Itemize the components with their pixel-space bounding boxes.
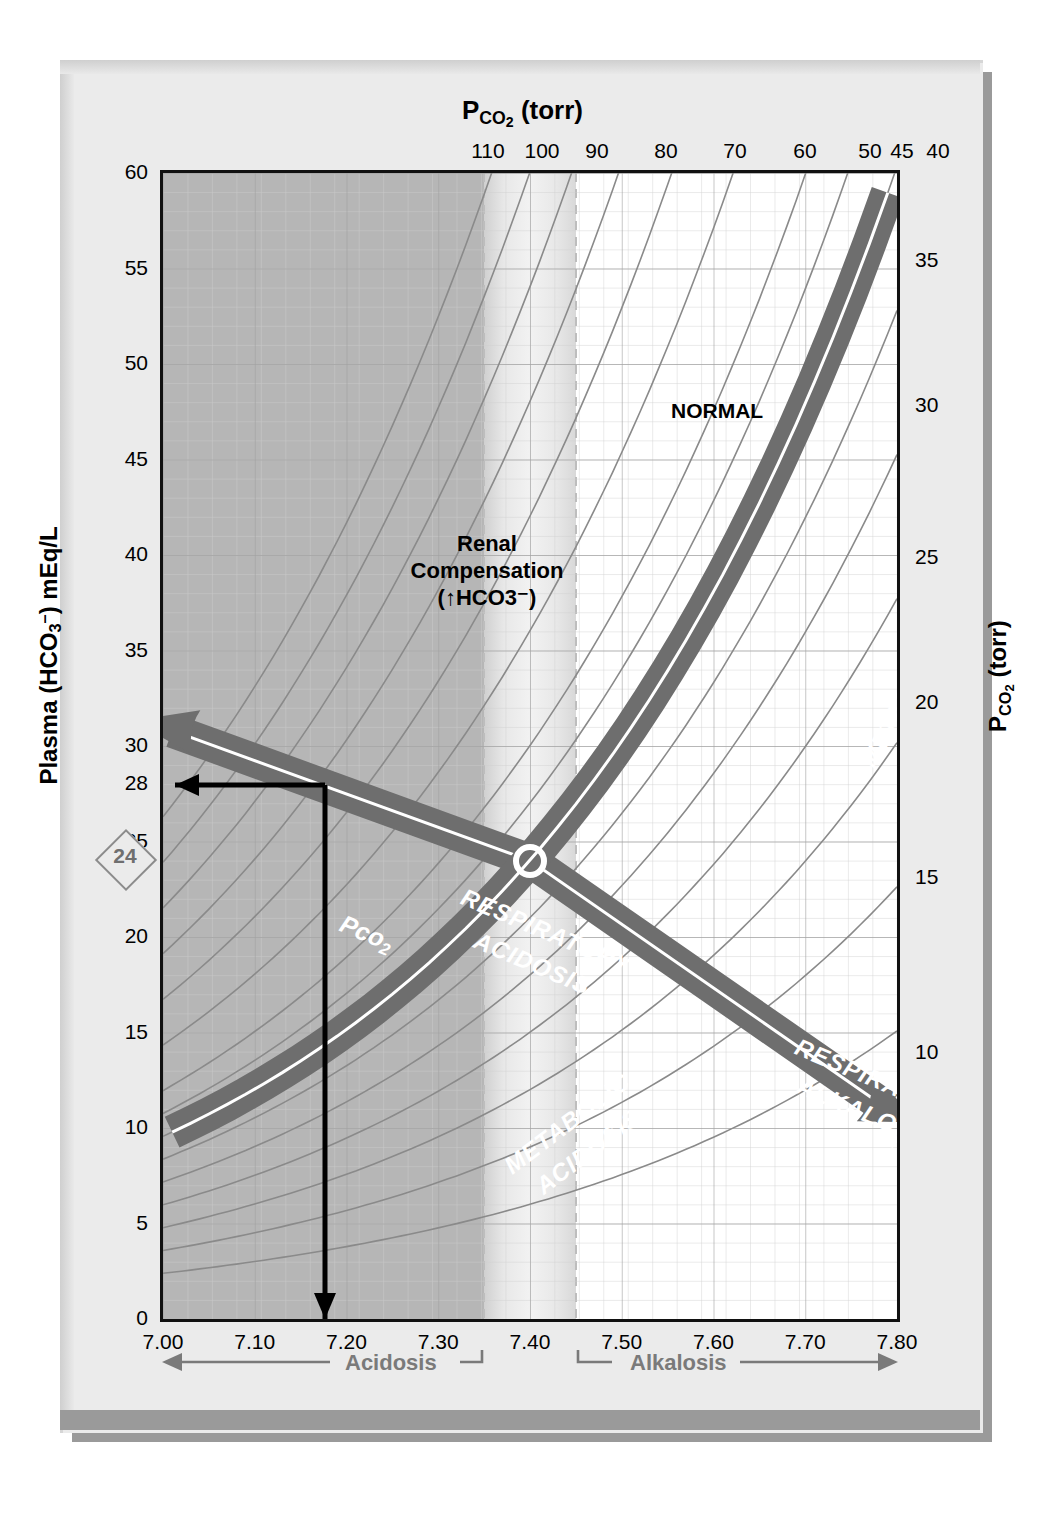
left-tick-15: 15 <box>90 1020 148 1044</box>
left-tick-5: 5 <box>90 1211 148 1235</box>
top-tick-90: 90 <box>557 139 637 163</box>
top-tick-70: 70 <box>695 139 775 163</box>
right-tick-20: 20 <box>915 690 975 714</box>
left-tick-60: 60 <box>90 160 148 184</box>
left-tick-20: 20 <box>90 924 148 948</box>
alkalosis-arrowhead <box>878 1353 898 1371</box>
alkalosis-label: Alkalosis <box>630 1350 727 1376</box>
renal-line-2: Compensation <box>367 558 607 585</box>
renal-line-1: Renal <box>367 531 607 558</box>
left-tick-10: 10 <box>90 1115 148 1139</box>
right-axis-title: PCO2 (torr) <box>984 476 1016 876</box>
right-tick-15: 15 <box>915 865 975 889</box>
plot-area: NORMAL NORMAL Renal Compensation (↑HCO3⁻… <box>160 170 900 1322</box>
left-tick-0: 0 <box>90 1306 148 1330</box>
right-tick-35: 35 <box>915 248 975 272</box>
right-tick-25: 25 <box>915 545 975 569</box>
left-tick-28: 28 <box>90 771 148 795</box>
plate-bevel-top <box>60 60 980 74</box>
direction-bar: Acidosis Alkalosis <box>160 1348 900 1382</box>
left-axis-title: Plasma (HCO3–) mEq/L <box>35 455 66 855</box>
right-tick-10: 10 <box>915 1040 975 1064</box>
left-tick-30: 30 <box>90 733 148 757</box>
top-axis-title: PCO2 (torr) <box>0 95 1045 130</box>
right-tick-30: 30 <box>915 393 975 417</box>
figure-root: PCO2 (torr) <box>0 0 1045 1535</box>
hco3-24-marker: 24 <box>96 830 154 888</box>
acidosis-label: Acidosis <box>345 1350 437 1376</box>
top-tick-80: 80 <box>626 139 706 163</box>
normal-label-top: NORMAL <box>671 399 763 423</box>
direction-bar-svg <box>160 1348 900 1382</box>
renal-line-3: (↑HCO3⁻) <box>367 585 607 612</box>
marker-value: 24 <box>96 844 154 868</box>
left-tick-40: 40 <box>90 542 148 566</box>
renal-compensation-label: Renal Compensation (↑HCO3⁻) <box>367 531 607 611</box>
left-tick-35: 35 <box>90 638 148 662</box>
acidosis-arrowhead <box>162 1353 182 1371</box>
left-tick-50: 50 <box>90 351 148 375</box>
plate-bottom-bar <box>60 1410 980 1430</box>
top-tick-40: 40 <box>898 139 978 163</box>
left-tick-55: 55 <box>90 256 148 280</box>
left-tick-45: 45 <box>90 447 148 471</box>
